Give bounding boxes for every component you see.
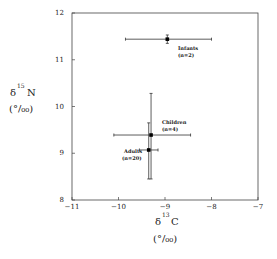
y-tick-label: 12 [55,9,64,17]
svg-text:13: 13 [162,211,170,218]
y-tick-label: 11 [55,56,64,64]
plot-frame [72,13,258,200]
x-tick-label: −11 [65,203,80,211]
x-axis-label: δ 13 C (°/₀₀) [153,211,179,244]
series-label: Children [162,119,187,125]
series-n-label: (n=2) [178,52,194,58]
svg-text:δ: δ [155,216,161,227]
data-point-marker [166,37,170,41]
series-label: Adults [123,148,142,154]
series-label: Infants [178,45,198,51]
x-tick-label: −8 [206,203,216,211]
svg-text:(°/₀₀): (°/₀₀) [9,103,33,114]
svg-text:δ: δ [10,87,16,98]
y-tick-label: 10 [55,103,64,111]
x-tick-label: −9 [160,203,170,211]
svg-text:(°/₀₀): (°/₀₀) [153,233,177,244]
svg-text:N: N [27,87,36,98]
series-adults: Adults(n=20) [122,123,158,179]
isotope-scatter-chart: −11−10−9−8−789101112 Infants(n=2)Childre… [0,0,277,259]
x-tick-label: −10 [111,203,126,211]
y-tick-label: 8 [60,196,64,204]
series-infants: Infants(n=2) [125,35,211,58]
data-point-marker [149,133,153,137]
series-n-label: (n=20) [122,155,142,161]
data-points: Infants(n=2)Children(n=4)Adults(n=20) [114,35,212,179]
x-tick-label: −7 [253,203,263,211]
data-point-marker [147,148,151,152]
svg-text:15: 15 [17,82,25,89]
svg-text:C: C [171,216,179,227]
series-children: Children(n=4) [114,93,191,179]
series-n-label: (n=4) [162,126,178,132]
y-axis-label: δ 15 N (°/₀₀) [9,82,36,114]
y-tick-label: 9 [60,149,64,157]
